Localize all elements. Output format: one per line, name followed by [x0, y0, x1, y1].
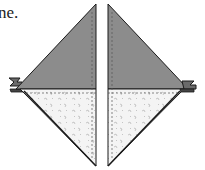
right-hst-unit: [108, 4, 196, 166]
left-hst-unit: [9, 4, 96, 166]
right-dark-triangle: [108, 4, 188, 89]
left-dark-triangle: [16, 4, 96, 89]
right-dog-ear-lower: [180, 89, 194, 92]
hst-diagram: [0, 0, 205, 170]
right-dog-ear: [182, 81, 196, 89]
